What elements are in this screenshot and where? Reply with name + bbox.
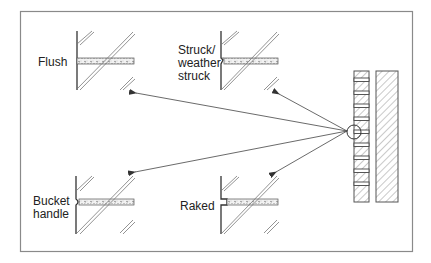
label-struck-line-3: struck: [178, 70, 221, 83]
flush-joint-detail: [77, 31, 135, 90]
label-struck: Struck/ weather struck: [178, 44, 221, 83]
brick-wall-section: [347, 71, 398, 202]
arrow-to-bucket-handle: [135, 131, 347, 172]
arrow-to-raked: [276, 131, 347, 172]
label-bucket-line-2: handle: [33, 208, 70, 221]
label-bucket-handle: Bucket handle: [33, 195, 70, 221]
mortar-joint-diagram: [0, 0, 431, 263]
label-flush: Flush: [38, 56, 67, 69]
struck-joint-detail: [221, 31, 279, 90]
raked-joint-detail: [221, 176, 279, 234]
label-raked: Raked: [180, 200, 215, 213]
arrow-to-flush: [136, 93, 347, 131]
leader-arrows: [135, 93, 347, 172]
bucket-handle-joint-detail: [76, 176, 135, 234]
arrow-to-struck: [279, 94, 347, 131]
